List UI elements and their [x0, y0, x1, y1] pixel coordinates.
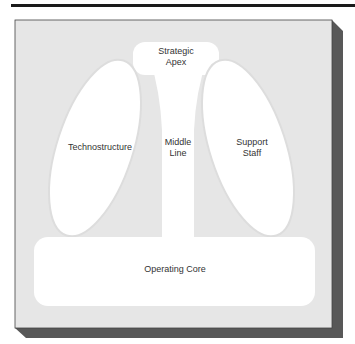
operating-core-label: Operating Core: [120, 264, 230, 275]
technostructure-label: Technostructure: [55, 142, 145, 153]
support-staff-label: Support Staff: [222, 137, 282, 159]
strategic-apex-label: Strategic Apex: [145, 46, 207, 68]
middle-line-label: Middle Line: [150, 137, 206, 159]
